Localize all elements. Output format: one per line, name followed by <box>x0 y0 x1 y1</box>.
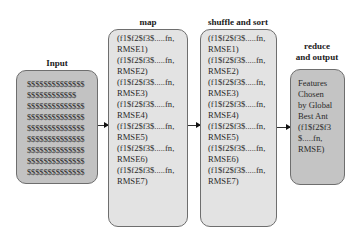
shuffle-line: (f1$f2$f3$.....fn, <box>208 143 276 154</box>
map-line: (f1$f2$f3$.....fn, <box>117 143 187 154</box>
shuffle-line: RMSE7) <box>208 176 276 187</box>
shuffle-line: (f1$f2$f3$.....fn, <box>208 121 276 132</box>
input-line: $$$$$$$$$$$$$$ <box>27 101 97 112</box>
input-line: $$$$$$$$$$$$$$ <box>27 156 97 167</box>
input-title: Input <box>16 58 98 69</box>
map-box: (f1$f2$f3$.....fn, RMSE1) (f1$f2$f3$....… <box>108 29 188 227</box>
shuffle-line: (f1$f2$f3$.....fn, <box>208 165 276 176</box>
reduce-line: Features <box>298 78 342 89</box>
shuffle-line: (f1$f2$f3$.....fn, <box>208 77 276 88</box>
map-title: map <box>108 17 188 28</box>
arrow-shuffle-to-reduce <box>277 127 290 128</box>
input-line: $$$$$$$$$$$$$$ <box>27 167 97 178</box>
input-line: $$$$$$$$$$$$$$ <box>27 123 97 134</box>
map-line: RMSE6) <box>117 154 187 165</box>
map-line: RMSE7) <box>117 176 187 187</box>
map-line: (f1$f2$f3$.....fn, <box>117 165 187 176</box>
reduce-title-line1: reduce <box>282 41 352 52</box>
shuffle-line: RMSE6) <box>208 154 276 165</box>
arrow-map-to-shuffle <box>188 125 200 126</box>
shuffle-line: RMSE5) <box>208 132 276 143</box>
shuffle-line: (f1$f2$f3$.....fn, <box>208 99 276 110</box>
reduce-line: $.....fn, <box>298 133 342 144</box>
map-line: RMSE1) <box>117 44 187 55</box>
reduce-title: reduce and output <box>282 41 352 63</box>
input-line: $$$$$$$$$$$$$$ <box>27 134 97 145</box>
map-line: (f1$f2$f3$.....fn, <box>117 99 187 110</box>
shuffle-line: RMSE4) <box>208 110 276 121</box>
arrow-input-to-map <box>98 125 108 126</box>
map-line: RMSE2) <box>117 66 187 77</box>
input-line: $$$$$$$$$$$$$$ <box>27 145 97 156</box>
map-line: (f1$f2$f3$.....fn, <box>117 121 187 132</box>
input-line: $$$$$$$$$$$$$$ <box>27 79 97 90</box>
reduce-box: Features Chosen by Global Best Ant (f1$f… <box>290 69 345 185</box>
shuffle-box: (f1$f2$f3$.....fn, RMSE1) (f1$f2$f3$....… <box>200 29 277 227</box>
reduce-line: by Global <box>298 100 342 111</box>
reduce-title-line2: and output <box>282 52 352 63</box>
input-line: $$$$$$$$$$$$$$ <box>27 112 97 123</box>
shuffle-title: shuffle and sort <box>196 17 280 28</box>
map-line: RMSE3) <box>117 88 187 99</box>
shuffle-line: (f1$f2$f3$.....fn, <box>208 33 276 44</box>
shuffle-line: RMSE3) <box>208 88 276 99</box>
map-line: (f1$f2$f3$.....fn, <box>117 77 187 88</box>
input-box: $$$$$$$$$$$$$$ $$$$$$$$$$$$ $$$$$$$$$$$$… <box>16 70 98 184</box>
shuffle-line: (f1$f2$f3$.....fn, <box>208 55 276 66</box>
input-line: $$$$$$$$$$$$ <box>27 90 97 101</box>
shuffle-line: RMSE1) <box>208 44 276 55</box>
map-line: (f1$f2$f3$.....fn, <box>117 55 187 66</box>
map-line: (f1$f2$f3$.....fn, <box>117 33 187 44</box>
reduce-line: Best Ant <box>298 111 342 122</box>
map-line: RMSE5) <box>117 132 187 143</box>
map-line: RMSE4) <box>117 110 187 121</box>
reduce-line: Chosen <box>298 89 342 100</box>
reduce-line: RMSE) <box>298 144 342 155</box>
shuffle-line: RMSE2) <box>208 66 276 77</box>
reduce-line: (f1$f2$f3 <box>298 122 342 133</box>
